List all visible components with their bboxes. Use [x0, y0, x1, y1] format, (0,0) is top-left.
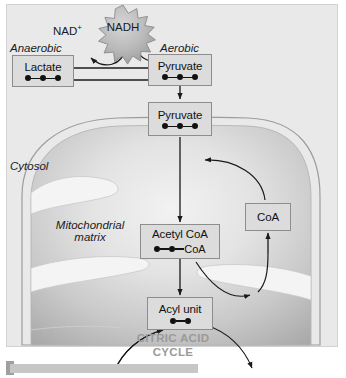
carbon-dot [25, 75, 31, 81]
mitochondrial-matrix-label: Mitochondrial matrix [44, 219, 136, 243]
box-acyl-unit-label: Acyl unit [159, 303, 202, 316]
box-pyruvate-matrix-label: Pyruvate [158, 109, 203, 122]
box-acetyl-coa-label: Acetyl CoA [152, 228, 208, 241]
nadh-burst-icon [99, 5, 156, 64]
aerobic-label: Aerobic [160, 42, 199, 54]
cytosol-label: Cytosol [10, 160, 48, 172]
matrix-label-line1: Mitochondrial [56, 219, 124, 231]
carbon-dot [162, 123, 168, 129]
box-acetyl-coa-suffix: CoA [184, 243, 205, 255]
carbon-dot [55, 75, 61, 81]
box-acyl-unit-carbons [170, 318, 191, 324]
box-pyruvate-cytosol[interactable]: Pyruvate [148, 54, 212, 86]
box-lactate[interactable]: Lactate [12, 55, 74, 87]
box-acyl-unit[interactable]: Acyl unit [147, 297, 213, 330]
matrix-label-line2: matrix [74, 231, 105, 243]
carbon-dot [154, 246, 160, 252]
nad-plus-superscript: + [77, 23, 82, 32]
carbon-dot [170, 318, 176, 324]
nad-plus-label: NAD+ [53, 24, 82, 37]
carbon-dot [177, 74, 183, 80]
carbon-bond [183, 126, 192, 128]
carbon-dot [162, 74, 168, 80]
box-pyruvate-cytosol-label: Pyruvate [158, 60, 203, 73]
box-lactate-carbons [25, 75, 61, 81]
carbon-bond [168, 77, 177, 79]
box-coa[interactable]: CoA [245, 203, 291, 231]
carbon-bond [176, 320, 185, 322]
figure-root: NAD+ NADH Anaerobic Aerobic Cytosol Mito… [0, 0, 346, 378]
bottom-bar [10, 364, 198, 373]
citric-acid-line1: CITRIC ACID [137, 332, 210, 344]
anaerobic-label: Anaerobic [10, 42, 62, 54]
box-pyruvate-cytosol-carbons [162, 74, 198, 80]
box-coa-label: CoA [257, 211, 279, 224]
box-acetyl-coa[interactable]: Acetyl CoA CoA [140, 224, 220, 259]
nadh-label: NADH [95, 21, 151, 33]
carbon-bond [183, 77, 192, 79]
carbon-bond [160, 248, 169, 250]
carbon-bond [168, 126, 177, 128]
box-lactate-label: Lactate [24, 61, 61, 74]
carbon-bond [175, 248, 184, 250]
citric-acid-line2: CYCLE [153, 346, 193, 358]
box-pyruvate-matrix[interactable]: Pyruvate [148, 102, 212, 136]
box-acetyl-coa-carbons: CoA [154, 243, 205, 255]
carbon-dot [177, 123, 183, 129]
carbon-bond [31, 78, 40, 80]
citric-acid-cycle-label: CITRIC ACID CYCLE [113, 331, 233, 360]
carbon-dot [192, 74, 198, 80]
carbon-dot [192, 123, 198, 129]
carbon-dot [169, 246, 175, 252]
box-pyruvate-matrix-carbons [162, 123, 198, 129]
carbon-dot [185, 318, 191, 324]
carbon-bond [46, 78, 55, 80]
carbon-dot [40, 75, 46, 81]
